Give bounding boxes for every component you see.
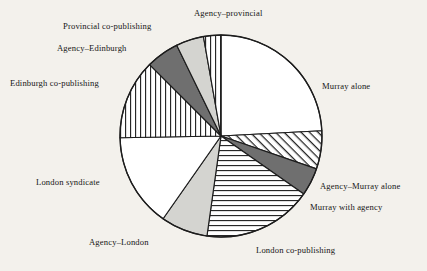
pie-slice-group: [120, 35, 322, 237]
pie-label-london-syndicate: London syndicate: [36, 178, 100, 187]
pie-label-agency-provincial: Agency–provincial: [194, 9, 262, 18]
pie-chart-figure: Agency–provincial Provincial co-publishi…: [0, 0, 427, 271]
pie-label-agency-london: Agency–London: [89, 238, 149, 247]
pie-label-murray-with-agency: Murray with agency: [310, 203, 382, 212]
pie-label-agency-edinburgh: Agency–Edinburgh: [57, 44, 127, 53]
pie-label-edinburgh-co-publishing: Edinburgh co-publishing: [10, 79, 99, 88]
pie-label-agency-murray-alone: Agency–Murray alone: [320, 182, 400, 191]
pie-slice: [221, 35, 322, 136]
pie-label-murray-alone: Murray alone: [322, 82, 370, 91]
pie-chart-svg: [0, 0, 427, 271]
pie-label-provincial-co-publishing: Provincial co-publishing: [63, 22, 151, 31]
pie-label-london-co-publishing: London co-publishing: [256, 246, 335, 255]
